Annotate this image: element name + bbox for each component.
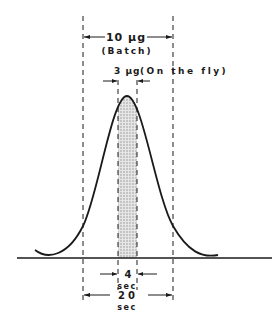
narrow-time-value: 4 [125, 269, 132, 280]
on-the-fly-shaded-region [118, 80, 137, 258]
fly-width-arrows [103, 79, 150, 83]
batch-mode-label: (Batch) [101, 46, 152, 56]
fly-mode-label: (On the fly) [140, 66, 228, 76]
wide-time-unit: sec [117, 303, 136, 312]
fly-amount-label: 3 µg [114, 66, 140, 76]
peak-diagram: 10 µg (Batch) 3 µg (On the fly) 4 sec 20… [0, 0, 280, 318]
batch-amount-label: 10 µg [106, 31, 146, 44]
wide-time-value: 20 [118, 290, 138, 301]
